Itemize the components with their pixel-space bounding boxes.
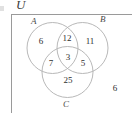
venn-diagram-figure: U A B C 6 12 11 7 3 5 25 6 — [0, 0, 132, 113]
region-count-a-and-b: 12 — [63, 33, 72, 43]
region-count-a-and-b-and-c: 3 — [66, 52, 71, 62]
region-count-a-only: 6 — [39, 36, 44, 46]
set-label-a: A — [31, 16, 37, 26]
region-count-b-and-c: 5 — [81, 58, 86, 68]
set-label-b: B — [100, 14, 106, 24]
region-count-c-only: 25 — [64, 75, 73, 85]
region-count-b-only: 11 — [86, 36, 95, 46]
set-label-c: C — [63, 99, 69, 109]
region-count-outside: 6 — [113, 83, 118, 93]
region-count-a-and-c: 7 — [49, 58, 54, 68]
